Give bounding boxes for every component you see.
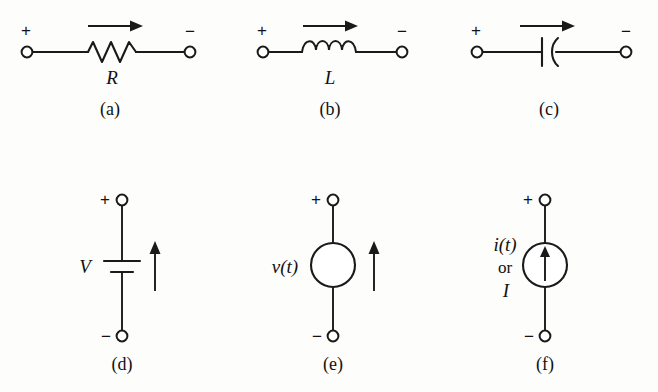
- terminal-right-c: [621, 47, 632, 58]
- caption-a: (a): [100, 100, 120, 118]
- caption-c: (c): [539, 100, 559, 118]
- polarity-minus-b: −: [397, 23, 407, 40]
- terminal-bottom-f: [540, 331, 551, 342]
- element-label-or: or: [498, 259, 512, 276]
- polarity-minus-c: −: [621, 23, 631, 40]
- current-arrow-d-head: [150, 241, 161, 254]
- element-label-it: i(t): [493, 235, 516, 254]
- caption-f: (f): [536, 355, 554, 373]
- terminal-right-a: [185, 47, 196, 58]
- polarity-plus-b: +: [257, 22, 267, 39]
- polarity-plus-d: +: [100, 191, 110, 208]
- terminal-bottom-d: [117, 331, 128, 342]
- polarity-minus-d: −: [101, 328, 111, 345]
- polarity-plus-c: +: [471, 22, 481, 39]
- terminal-top-f: [540, 195, 551, 206]
- panel-e-voltage-source-symbol: [311, 195, 380, 342]
- polarity-minus-e: −: [312, 328, 322, 345]
- caption-e: (e): [323, 355, 343, 373]
- current-arrow-e-head: [369, 241, 380, 254]
- panel-d-battery-symbol: [104, 195, 161, 342]
- element-label-v: V: [79, 257, 91, 276]
- element-label-l: L: [325, 68, 336, 87]
- caption-b: (b): [320, 100, 341, 118]
- polarity-minus-f: −: [524, 328, 534, 345]
- panel-a-resistor-symbol: [22, 21, 196, 63]
- current-arrow-a-head: [130, 21, 143, 32]
- resistor-zigzag: [88, 42, 136, 62]
- current-arrow-b-head: [345, 21, 358, 32]
- terminal-top-d: [117, 195, 128, 206]
- caption-d: (d): [112, 355, 133, 373]
- polarity-minus-a: −: [185, 23, 195, 40]
- element-label-r: R: [106, 68, 118, 87]
- inductor-coils: [302, 41, 356, 52]
- panel-b-inductor-symbol: [258, 21, 408, 58]
- polarity-plus-f: +: [523, 191, 533, 208]
- terminal-left-b: [258, 47, 269, 58]
- terminal-top-e: [328, 195, 339, 206]
- element-label-i-dc: I: [503, 281, 509, 300]
- current-arrow-c-head: [562, 21, 575, 32]
- element-label-vt: v(t): [272, 257, 298, 276]
- terminal-left-a: [22, 47, 33, 58]
- polarity-plus-e: +: [311, 191, 321, 208]
- vsource-circle: [311, 243, 355, 287]
- circuit-figure: + − R (a) + − L (b) + − (c) + − V (d) + …: [0, 0, 658, 392]
- terminal-left-c: [472, 47, 483, 58]
- panel-f-current-source-symbol: [523, 195, 567, 342]
- circuit-svg: [0, 0, 658, 392]
- terminal-right-b: [397, 47, 408, 58]
- polarity-plus-a: +: [21, 22, 31, 39]
- panel-c-capacitor-symbol: [472, 21, 632, 67]
- terminal-bottom-e: [328, 331, 339, 342]
